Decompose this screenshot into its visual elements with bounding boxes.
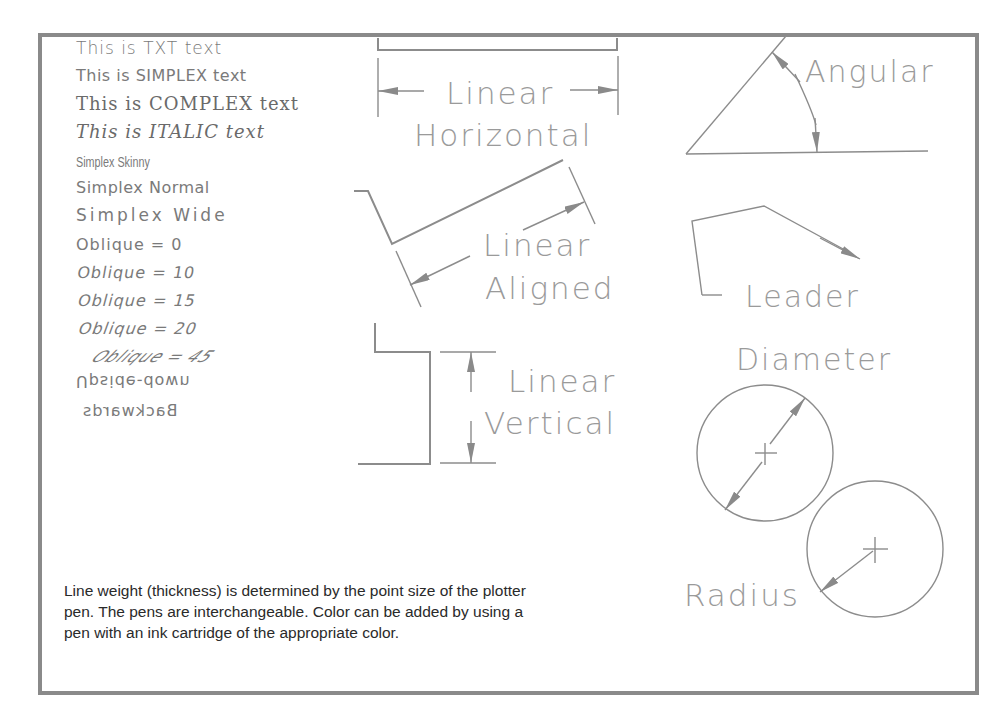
linear-vertical-dimension: [358, 323, 496, 464]
label-linear-horizontal-2: Horizontal: [414, 120, 592, 151]
label-linear-horizontal-1: Linear: [446, 78, 554, 109]
figure-caption: Line weight (thickness) is determined by…: [64, 580, 534, 643]
label-diameter: Diameter: [736, 345, 892, 375]
label-linear-vertical-2: Vertical: [484, 408, 616, 439]
label-leader: Leader: [745, 282, 860, 312]
label-angular: Angular: [805, 57, 935, 87]
diameter-dimension: [697, 385, 833, 521]
label-linear-aligned-1: Linear: [483, 230, 591, 261]
label-linear-aligned-2: Aligned: [485, 273, 614, 304]
radius-dimension: [807, 481, 943, 617]
cad-dimension-figure: This is TXT text This is SIMPLEX text Th…: [0, 0, 1002, 720]
label-linear-vertical-1: Linear: [508, 366, 616, 397]
label-radius: Radius: [684, 580, 800, 611]
